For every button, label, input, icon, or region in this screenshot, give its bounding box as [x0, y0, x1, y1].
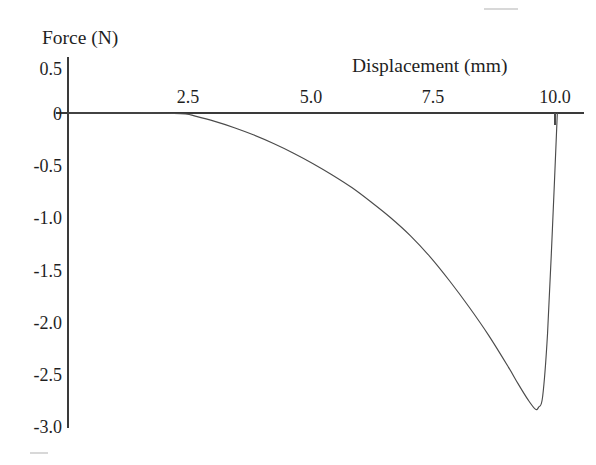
y-tick-label: -1.5 [34, 261, 63, 281]
x-tick-label: 2.5 [177, 87, 200, 107]
y-tick-label: -1.0 [34, 208, 63, 228]
scan-speck [484, 8, 518, 10]
y-tick-label: -3.0 [34, 417, 63, 437]
figure-container: Force (N) Displacement (mm) 0.5 0 -0.5 -… [0, 0, 596, 465]
x-tick-label: 7.5 [422, 87, 445, 107]
y-axis-title: Force (N) [42, 27, 118, 49]
x-tick-label: 10.0 [539, 87, 571, 107]
y-tick-label: 0 [53, 104, 62, 124]
y-tick-label: -2.0 [34, 313, 63, 333]
y-tick-label: -2.5 [34, 365, 63, 385]
force-displacement-chart: Force (N) Displacement (mm) 0.5 0 -0.5 -… [0, 0, 596, 465]
force-displacement-curve [68, 113, 557, 410]
y-tick-label: -0.5 [34, 156, 63, 176]
y-tick-label: 0.5 [40, 59, 63, 79]
x-axis-title: Displacement (mm) [352, 55, 507, 77]
x-tick-label: 5.0 [300, 87, 323, 107]
scan-speck [30, 452, 48, 454]
